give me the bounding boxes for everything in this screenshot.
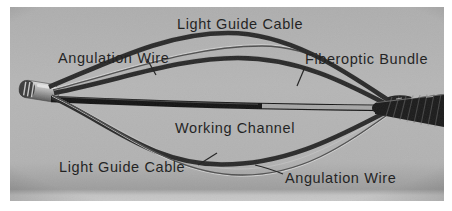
endoscope-components-figure: Light Guide Cable Angulation Wire Fibero… bbox=[0, 0, 452, 211]
photo-vignette-overlay bbox=[10, 7, 444, 201]
